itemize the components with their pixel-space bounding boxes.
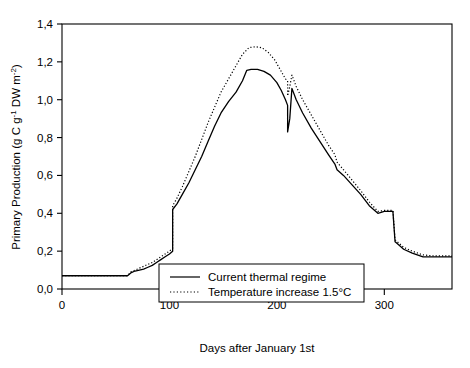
x-axis-title: Days after January 1st bbox=[199, 342, 315, 354]
primary-production-line-chart: 0,00,20,40,60,81,01,21,4 0100200300 Prim… bbox=[0, 0, 470, 368]
y-tick-label: 0,2 bbox=[37, 245, 53, 257]
x-tick-label: 300 bbox=[375, 299, 394, 311]
y-tick-label: 0,0 bbox=[37, 283, 53, 295]
legend-label-current-thermal-regime: Current thermal regime bbox=[208, 271, 326, 283]
y-axis-title-mid: DW m bbox=[10, 75, 22, 110]
y-axis-title-suffix: ) bbox=[10, 64, 22, 68]
x-tick-label: 0 bbox=[59, 299, 65, 311]
y-tick-label: 1,0 bbox=[37, 94, 53, 106]
y-tick-label: 0,6 bbox=[37, 169, 53, 181]
plot-frame bbox=[62, 24, 452, 289]
y-tick-label: 0,8 bbox=[37, 132, 53, 144]
y-tick-label: 1,4 bbox=[37, 18, 54, 30]
chart-figure: 0,00,20,40,60,81,01,21,4 0100200300 Prim… bbox=[0, 0, 470, 368]
y-axis-title-prefix: Primary Production (g C g bbox=[10, 117, 22, 249]
chart-legend: Current thermal regime Temperature incre… bbox=[159, 264, 364, 302]
legend-label-temperature-increase: Temperature increase 1.5°C bbox=[208, 286, 351, 298]
svg-text:Primary Production (g C g-1 DW: Primary Production (g C g-1 DW m-2) bbox=[9, 64, 22, 250]
y-tick-label: 1,2 bbox=[37, 56, 53, 68]
y-tick-label: 0,4 bbox=[37, 207, 54, 219]
y-axis-ticks: 0,00,20,40,60,81,01,21,4 bbox=[37, 18, 62, 295]
y-axis-title: Primary Production (g C g-1 DW m-2) bbox=[9, 64, 22, 250]
